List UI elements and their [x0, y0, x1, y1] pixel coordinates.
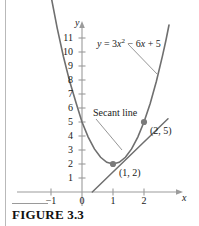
secant-line-label: Secant line [93, 108, 137, 118]
y-tick-label-10: 10 [57, 47, 73, 57]
figure-caption: FIGURE 3.3 [12, 207, 84, 223]
point-marker-1-2 [110, 161, 116, 167]
y-tick-label-9: 9 [57, 61, 73, 71]
y-tick-label-2: 2 [57, 159, 73, 169]
x-tick-label-1: 1 [105, 196, 121, 206]
y-tick-label-8: 8 [57, 75, 73, 85]
equation-constant: 5 [156, 38, 161, 49]
caption-rule [12, 203, 48, 204]
x-tick-label-2: 2 [136, 196, 152, 206]
y-tick-label-6: 6 [57, 103, 73, 113]
y-tick-label-3: 3 [57, 145, 73, 155]
figure-container: 11 10 9 8 7 6 5 4 3 2 1 −1 0 1 2 y x y =… [0, 0, 199, 226]
point-label-2-5: (2, 5) [150, 126, 172, 136]
y-axis-name: y [75, 18, 79, 28]
y-tick-label-1: 1 [57, 173, 73, 183]
point-marker-2-5 [141, 119, 147, 125]
y-tick-label-11: 11 [57, 33, 73, 43]
x-tick-label-0: 0 [74, 196, 90, 206]
point-label-1-2: (1, 2) [119, 168, 141, 178]
y-tick-label-5: 5 [57, 117, 73, 127]
y-tick-label-7: 7 [57, 89, 73, 99]
secant-leader-line [96, 119, 122, 150]
x-axis [17, 189, 183, 195]
equation-label: y = 3x2 − 6x + 5 [97, 38, 161, 49]
y-tick-label-4: 4 [57, 131, 73, 141]
x-axis-name: x [182, 193, 186, 203]
x-tick-label-neg1: −1 [43, 196, 59, 206]
